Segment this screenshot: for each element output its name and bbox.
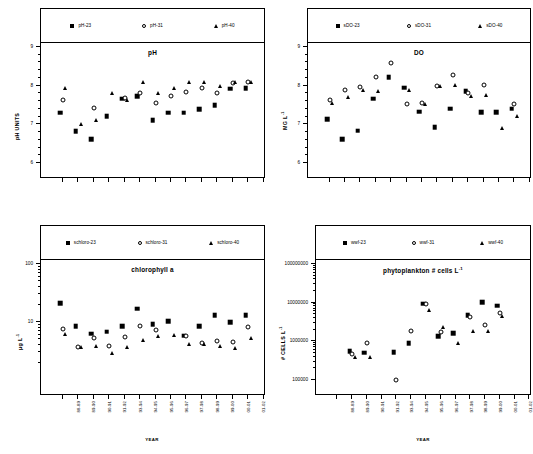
x-axis-label-chlorophyll: YEAR — [145, 437, 158, 442]
x-axis-tick-label: 00-01 — [512, 401, 517, 413]
y-axis-minor-tick — [38, 327, 40, 328]
x-axis-tick — [170, 178, 171, 182]
x-axis-tick-label: 99-00 — [498, 401, 503, 413]
y-axis-minor-tick — [313, 313, 315, 314]
x-axis-tick — [529, 178, 530, 182]
legend-label: schloro-31 — [146, 240, 168, 245]
y-axis-minor-tick — [38, 147, 40, 148]
data-point-triangle — [218, 84, 222, 88]
x-axis-tick-label: 97-98 — [199, 401, 204, 413]
y-axis-minor-tick — [313, 346, 315, 347]
y-axis-minor-tick — [305, 131, 307, 132]
y-axis-minor-tick — [38, 293, 40, 294]
x-axis-tick-label: 88-89 — [350, 401, 355, 413]
x-axis-tick-label: 89-90 — [365, 401, 370, 413]
x-axis-tick — [514, 395, 515, 399]
y-axis-minor-tick — [38, 54, 40, 55]
data-point-circle — [450, 72, 455, 77]
data-point-triangle — [441, 325, 445, 329]
x-axis-tick-label: 96-97 — [183, 401, 188, 413]
legend-entry-do-40: sDO-40 — [478, 23, 502, 28]
plot-area-phytoplankton — [316, 260, 530, 394]
data-point-square — [340, 137, 345, 142]
figure-root: pH-23 pH-31 pH-40 pH pH UNITS 6789 — [0, 0, 533, 454]
legend-do: sDO-23 sDO-31 sDO-40 — [308, 9, 530, 43]
data-point-triangle — [141, 80, 145, 84]
data-point-square — [166, 110, 171, 115]
y-axis-tick — [303, 85, 307, 86]
data-point-triangle — [500, 314, 504, 318]
legend-ph: pH-23 pH-31 pH-40 — [41, 9, 264, 43]
data-point-square — [212, 103, 217, 108]
legend-label: pH-40 — [222, 23, 235, 28]
y-axis-minor-tick — [38, 131, 40, 132]
data-point-triangle — [79, 345, 83, 349]
data-point-square — [356, 128, 361, 133]
data-point-square — [432, 125, 437, 130]
y-axis-tick — [303, 162, 307, 163]
legend-label: wwf-31 — [420, 240, 435, 245]
data-point-circle — [138, 323, 143, 328]
y-axis-minor-tick — [305, 69, 307, 70]
x-axis-tick — [484, 395, 485, 399]
data-point-triangle — [110, 91, 114, 95]
data-point-circle — [107, 344, 112, 349]
y-axis-minor-tick — [38, 266, 40, 267]
legend-entry-chloro-40: schloro-40 — [209, 240, 239, 245]
y-axis-minor-tick — [38, 269, 40, 270]
data-point-square — [135, 306, 140, 311]
data-point-square — [166, 319, 171, 324]
data-point-circle — [512, 102, 517, 107]
x-axis-tick — [232, 395, 233, 399]
y-axis-minor-tick — [38, 276, 40, 277]
x-axis-tick — [62, 395, 63, 399]
data-point-triangle — [218, 344, 222, 348]
x-axis-tick-label: 95-96 — [168, 401, 173, 413]
data-point-triangle — [346, 95, 350, 99]
x-axis-tick — [124, 395, 125, 399]
data-point-circle — [153, 101, 158, 106]
circle-marker-icon — [142, 24, 146, 28]
data-point-square — [479, 110, 484, 115]
x-axis-tick — [139, 395, 140, 399]
y-axis-minor-tick — [313, 349, 315, 350]
legend-label: schloro-23 — [74, 240, 96, 245]
circle-marker-icon — [138, 241, 142, 245]
y-axis-minor-tick — [305, 154, 307, 155]
y-axis-minor-tick — [313, 310, 315, 311]
data-point-square — [58, 301, 63, 306]
y-axis-minor-tick — [305, 108, 307, 109]
plot-frame-do: sDO-23 sDO-31 sDO-40 DO — [307, 8, 531, 178]
y-axis-tick — [311, 379, 315, 380]
data-point-square — [197, 107, 202, 112]
x-axis-tick — [452, 178, 453, 182]
x-axis-tick — [436, 178, 437, 182]
x-axis-tick-label: 98-99 — [483, 401, 488, 413]
y-axis-minor-tick — [38, 304, 40, 305]
data-point-square — [386, 75, 391, 80]
x-axis-tick — [216, 395, 217, 399]
square-marker-icon — [70, 24, 74, 28]
data-point-triangle — [484, 93, 488, 97]
legend-label: sDO-23 — [344, 23, 360, 28]
data-point-circle — [215, 90, 220, 95]
data-point-triangle — [361, 88, 365, 92]
x-axis-tick-label: 95-96 — [439, 401, 444, 413]
x-axis-tick — [170, 395, 171, 399]
y-axis-minor-tick — [38, 61, 40, 62]
data-point-triangle — [172, 333, 176, 337]
data-point-circle — [168, 93, 173, 98]
data-point-triangle — [202, 80, 206, 84]
data-point-square — [495, 303, 500, 308]
data-point-circle — [246, 324, 251, 329]
panel-ph: pH-23 pH-31 pH-40 pH pH UNITS 6789 — [0, 0, 268, 215]
y-axis-minor-tick — [313, 329, 315, 330]
y-axis-minor-tick — [38, 116, 40, 117]
x-axis-tick — [155, 178, 156, 182]
x-axis-tick — [108, 178, 109, 182]
data-point-triangle — [187, 342, 191, 346]
data-point-square — [104, 329, 109, 334]
y-axis-minor-tick — [38, 154, 40, 155]
y-axis-minor-tick — [305, 139, 307, 140]
x-axis-tick-label: 01-02 — [527, 401, 532, 413]
